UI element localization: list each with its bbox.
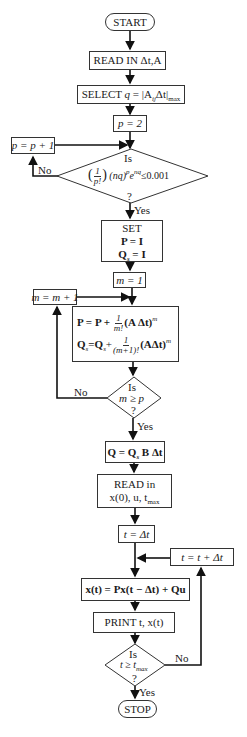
x-update-box: x(t) = Px(t − Δt) + Qu	[81, 578, 190, 601]
set-qs-line: Qs = I	[118, 248, 145, 261]
select-q-label: SELECT q = |AijΔt|max	[82, 88, 181, 101]
start-terminal: START	[105, 13, 155, 31]
decision-3-question: ?	[132, 672, 137, 684]
t-increment-label: t = t + Δt	[181, 551, 222, 564]
m-increment-label: m = m + 1	[31, 291, 78, 304]
q-compute-label: Q = Qs B Δt	[107, 446, 162, 459]
t-init-label: t = Δt	[124, 528, 150, 541]
decision-2-yes-label: Yes	[137, 420, 153, 432]
decision-2-question: ?	[131, 404, 136, 416]
set-title: SET	[122, 222, 142, 235]
set-box: SET P = I Qs = I	[101, 220, 163, 262]
m-init-box: m = 1	[113, 272, 146, 288]
read-in-label: READ IN Δt,A	[94, 54, 162, 67]
decision-1-question: ?	[127, 190, 132, 202]
start-label: START	[113, 16, 146, 29]
read-in-box: READ IN Δt,A	[89, 51, 166, 70]
m-init-label: m = 1	[116, 274, 142, 287]
stop-label: STOP	[124, 703, 151, 716]
p-init-label: p = 2	[118, 117, 142, 130]
update-p-qs-box: P = P + 1m!(A Δt)m Qs=Qs+1(m+1)!(AΔt)m	[72, 306, 179, 362]
decision-2-no-label: No	[74, 386, 87, 398]
update-qs-line: Qs=Qs+1(m+1)!(AΔt)m	[77, 336, 171, 355]
set-p-line: P = I	[121, 235, 143, 248]
p-increment-label: p = p + 1	[12, 139, 54, 152]
read-in-2-line2: x(0), u, tmax	[110, 491, 160, 504]
update-p-line: P = P + 1m!(A Δt)m	[77, 314, 157, 333]
read-in-2-box: READ in x(0), u, tmax	[97, 474, 172, 508]
stop-terminal: STOP	[118, 700, 157, 718]
print-label: PRINT t, x(t)	[105, 616, 164, 629]
decision-3-yes-label: Yes	[139, 686, 155, 698]
select-q-box: SELECT q = |AijΔt|max	[77, 85, 185, 104]
decision-1-yes-label: Yes	[134, 204, 150, 216]
x-update-label: x(t) = Px(t − Δt) + Qu	[85, 583, 185, 596]
decision-1-is: Is	[124, 152, 132, 164]
q-compute-box: Q = Qs B Δt	[105, 441, 165, 463]
m-increment-box: m = m + 1	[33, 289, 77, 305]
decision-2-condition: m ≥ p	[119, 392, 144, 404]
print-box: PRINT t, x(t)	[93, 612, 175, 633]
read-in-2-line1: READ in	[114, 478, 155, 491]
decision-1-condition: (1p!) (nq)penq≤0.001	[88, 167, 169, 186]
decision-3-no-label: No	[175, 652, 188, 664]
p-init-box: p = 2	[113, 115, 147, 132]
decision-1-no-label: No	[38, 164, 51, 176]
t-increment-box: t = t + Δt	[170, 548, 234, 566]
t-init-box: t = Δt	[118, 525, 155, 543]
p-increment-box: p = p + 1	[11, 137, 55, 154]
decision-3-condition: t ≥ tmax	[120, 659, 148, 671]
